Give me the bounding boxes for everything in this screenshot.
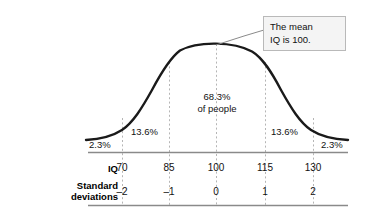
sd-tick-minus1: –1 [149,187,189,197]
iq-tick-85: 85 [149,163,189,173]
iq-distribution-figure: The mean IQ is 100. 2.3% 13.6% 13.6% 2.3… [0,0,369,223]
iq-tick-130: 130 [293,163,333,173]
iq-tick-100: 100 [196,163,236,173]
sd-tick-zero: 0 [196,187,236,197]
callout-leader-line [216,30,264,45]
gridlines [123,44,314,205]
callout-line-1: The mean [270,21,339,34]
sd-tick-plus1: 1 [245,187,285,197]
label-right-tail-percent: 2.3% [321,140,343,150]
sd-tick-minus2: –2 [102,187,142,197]
sd-tick-plus2: 2 [293,187,333,197]
callout-line-2: IQ is 100. [270,34,339,47]
center-percent-value: 68.3% [172,91,262,103]
label-left-mid-percent: 13.6% [131,127,158,137]
label-left-tail-percent: 2.3% [89,140,111,150]
iq-tick-115: 115 [245,163,285,173]
label-center-percent: 68.3% of people [172,91,262,115]
callout-mean-iq: The mean IQ is 100. [263,16,346,51]
label-right-mid-percent: 13.6% [271,127,298,137]
center-percent-caption: of people [172,103,262,115]
iq-tick-70: 70 [102,163,142,173]
